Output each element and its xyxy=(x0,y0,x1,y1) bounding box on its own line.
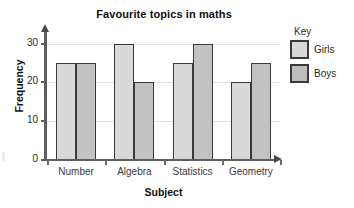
gridline xyxy=(47,44,280,45)
legend-item-girls[interactable]: Girls xyxy=(290,40,352,59)
y-axis-label: Frequency xyxy=(13,51,25,121)
x-tick-mark xyxy=(47,160,49,165)
x-tick-mark xyxy=(105,160,107,165)
legend-label-boys: Boys xyxy=(314,68,336,79)
x-tick-mark xyxy=(164,160,166,165)
y-tick-mark xyxy=(41,159,46,161)
legend-swatch-boys-icon xyxy=(290,64,309,83)
x-category-label-algebra: Algebra xyxy=(105,166,163,177)
chart-title: Favourite topics in maths xyxy=(48,8,280,20)
y-tick-label: 30 xyxy=(27,37,38,48)
legend: Key Girls Boys xyxy=(290,26,352,88)
left-edge-artifact xyxy=(2,152,5,161)
x-category-label-number: Number xyxy=(47,166,105,177)
bar-statistics-boys xyxy=(193,44,213,160)
bar-number-girls xyxy=(56,63,76,160)
x-axis-line xyxy=(44,159,275,161)
legend-title: Key xyxy=(294,26,352,37)
bar-algebra-boys xyxy=(134,82,154,160)
bar-number-boys xyxy=(76,63,96,160)
plot-area xyxy=(47,32,280,160)
y-axis-line xyxy=(44,30,47,161)
y-tick-label: 0 xyxy=(32,153,38,164)
bar-geometry-boys xyxy=(251,63,271,160)
x-tick-mark xyxy=(280,160,282,165)
bar-statistics-girls xyxy=(173,63,193,160)
bar-geometry-girls xyxy=(231,82,251,160)
y-axis-arrow-icon xyxy=(41,24,49,32)
x-category-label-statistics: Statistics xyxy=(164,166,222,177)
y-tick-label: 10 xyxy=(27,114,38,125)
legend-label-girls: Girls xyxy=(314,44,335,55)
y-tick-mark xyxy=(41,120,46,122)
x-category-label-geometry: Geometry xyxy=(222,166,280,177)
bar-chart: Favourite topics in maths Frequency Subj… xyxy=(0,0,354,208)
x-tick-mark xyxy=(222,160,224,165)
x-axis-label: Subject xyxy=(47,186,280,198)
y-tick-label: 20 xyxy=(27,75,38,86)
y-tick-mark xyxy=(41,43,46,45)
legend-swatch-girls-icon xyxy=(290,40,309,59)
legend-item-boys[interactable]: Boys xyxy=(290,64,352,83)
bar-algebra-girls xyxy=(114,44,134,160)
y-tick-mark xyxy=(41,81,46,83)
